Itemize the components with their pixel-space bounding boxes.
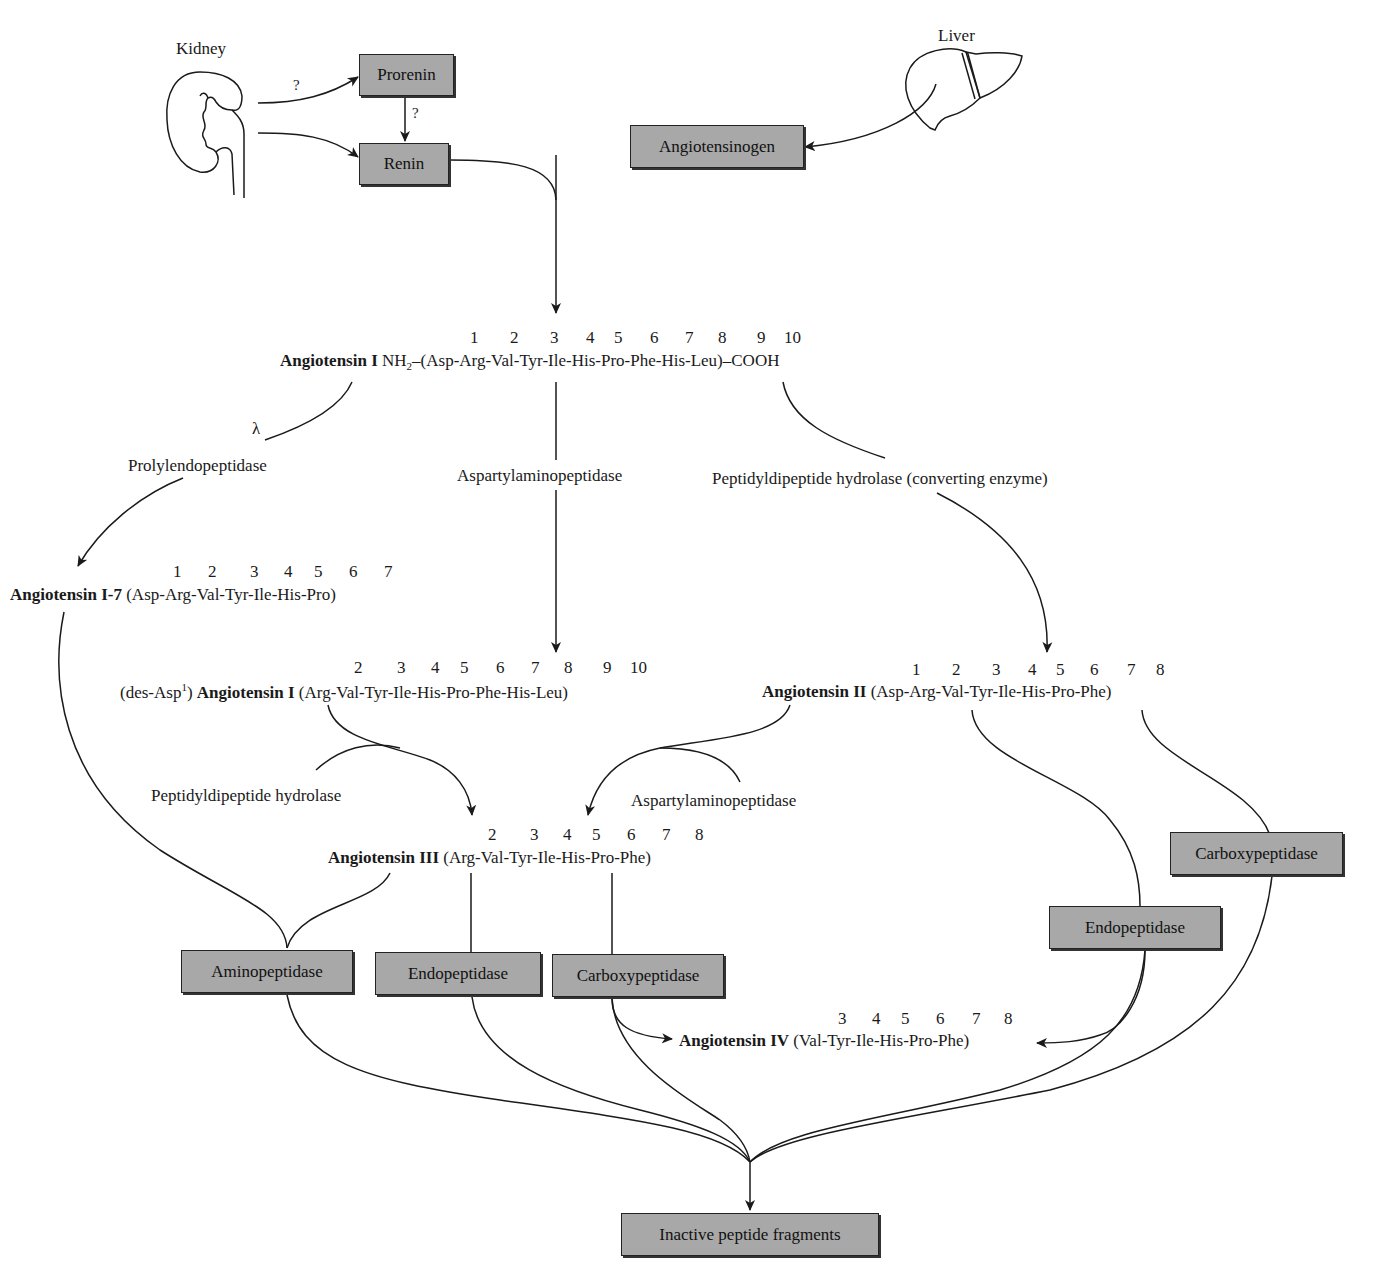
des-asp-angiotensin-i: (des-Asp1) Angiotensin I (Arg-Val-Tyr-Il… xyxy=(120,682,568,701)
lambda-label: λ xyxy=(252,420,260,437)
ang1-sequence: –(Asp-Arg-Val-Tyr-Ile-His-Pro-Phe-His-Le… xyxy=(412,351,779,370)
ang2-name: Angiotensin II xyxy=(762,682,866,701)
angiotensin-ii: Angiotensin II (Asp-Arg-Val-Tyr-Ile-His-… xyxy=(762,683,1111,700)
liver-icon xyxy=(906,49,1022,130)
prorenin-box: Prorenin xyxy=(359,54,454,96)
question-mark-renin: ? xyxy=(412,106,419,121)
carboxypeptidase-left-label: Carboxypeptidase xyxy=(577,966,700,986)
endopeptidase-left-box: Endopeptidase xyxy=(375,952,541,995)
aminopeptidase-box: Aminopeptidase xyxy=(181,950,353,993)
des-asp-ang1-name: Angiotensin I xyxy=(197,683,295,702)
kidney-label: Kidney xyxy=(176,40,226,57)
carboxypeptidase-left-box: Carboxypeptidase xyxy=(552,954,724,997)
angiotensin-iv: Angiotensin IV (Val-Tyr-Ile-His-Pro-Phe) xyxy=(679,1032,969,1049)
aspartylaminopeptidase-top-label: Aspartylaminopeptidase xyxy=(457,467,622,484)
ang1-nh2: NH2 xyxy=(382,351,412,370)
ang1-7-sequence: (Asp-Arg-Val-Tyr-Ile-His-Pro) xyxy=(126,585,336,604)
des-asp-ang1-sequence: (Arg-Val-Tyr-Ile-His-Pro-Phe-His-Leu) xyxy=(299,683,568,702)
prorenin-label: Prorenin xyxy=(377,65,436,85)
question-mark-prorenin: ? xyxy=(293,78,300,93)
ang1-name: Angiotensin I xyxy=(280,351,378,370)
carboxypeptidase-right-label: Carboxypeptidase xyxy=(1195,844,1318,864)
angiotensin-iii: Angiotensin III (Arg-Val-Tyr-Ile-His-Pro… xyxy=(328,849,651,866)
angiotensinogen-label: Angiotensinogen xyxy=(659,137,775,157)
renin-box: Renin xyxy=(359,143,449,185)
ang3-name: Angiotensin III xyxy=(328,848,439,867)
angiotensinogen-box: Angiotensinogen xyxy=(630,125,804,168)
angiotensin-i: Angiotensin I NH2–(Asp-Arg-Val-Tyr-Ile-H… xyxy=(280,352,779,372)
des-asp-prefix: (des-Asp1) xyxy=(120,683,193,702)
peptidyldipeptide-hydrolase-label: Peptidyldipeptide hydrolase xyxy=(151,787,341,804)
ang1-7-name: Angiotensin I-7 xyxy=(10,585,122,604)
endopeptidase-right-box: Endopeptidase xyxy=(1049,906,1221,949)
ang4-sequence: (Val-Tyr-Ile-His-Pro-Phe) xyxy=(793,1031,969,1050)
ang3-sequence: (Arg-Val-Tyr-Ile-His-Pro-Phe) xyxy=(443,848,651,867)
carboxypeptidase-right-box: Carboxypeptidase xyxy=(1170,832,1343,875)
prolylendopeptidase-label: Prolylendopeptidase xyxy=(128,457,267,474)
pathway-connectors xyxy=(0,0,1374,1281)
ang2-sequence: (Asp-Arg-Val-Tyr-Ile-His-Pro-Phe) xyxy=(871,682,1112,701)
inactive-fragments-label: Inactive peptide fragments xyxy=(659,1225,840,1245)
endopeptidase-left-label: Endopeptidase xyxy=(408,964,508,984)
inactive-fragments-box: Inactive peptide fragments xyxy=(621,1213,879,1256)
renin-label: Renin xyxy=(384,154,425,174)
kidney-icon xyxy=(167,72,244,198)
aspartylaminopeptidase-mid-label: Aspartylaminopeptidase xyxy=(631,792,796,809)
ang4-name: Angiotensin IV xyxy=(679,1031,789,1050)
liver-label: Liver xyxy=(938,27,975,44)
endopeptidase-right-label: Endopeptidase xyxy=(1085,918,1185,938)
aminopeptidase-label: Aminopeptidase xyxy=(211,962,322,982)
converting-enzyme-label: Peptidyldipeptide hydrolase (converting … xyxy=(712,470,1048,487)
angiotensin-i-7: Angiotensin I-7 (Asp-Arg-Val-Tyr-Ile-His… xyxy=(10,586,336,603)
